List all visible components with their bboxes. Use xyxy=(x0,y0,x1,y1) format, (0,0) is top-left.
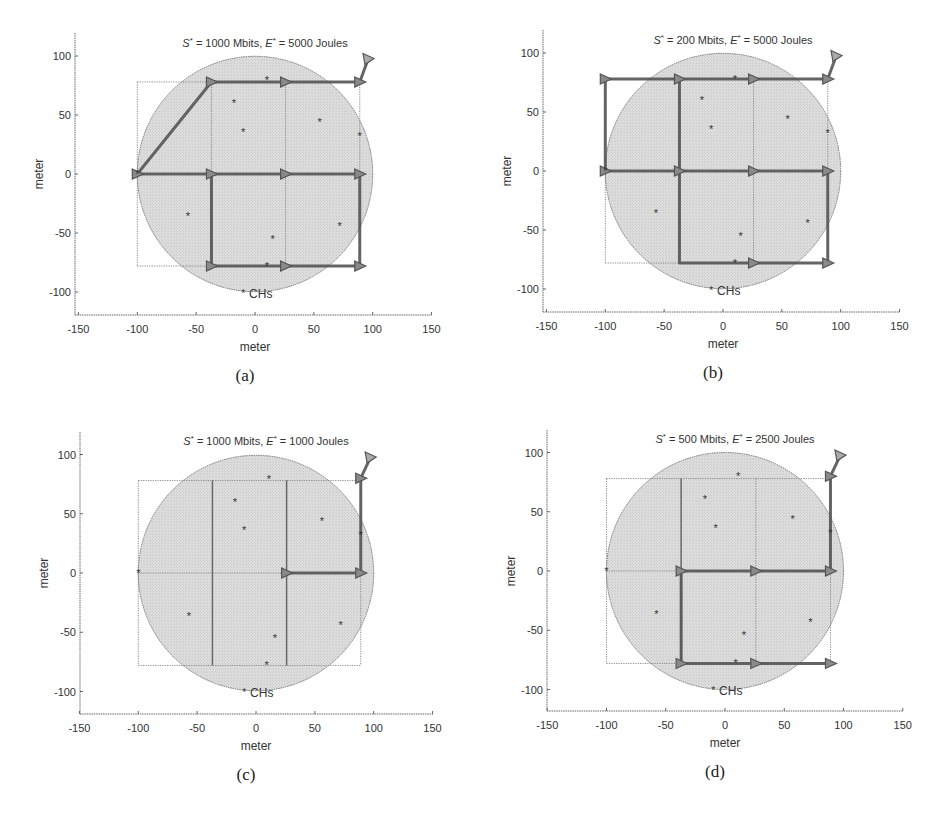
x-axis-label: meter xyxy=(240,340,271,354)
x-tick-label: 100 xyxy=(365,722,383,734)
ch-marker: * xyxy=(242,524,247,536)
y-tick-label: -50 xyxy=(527,624,543,636)
y-tick-label: -50 xyxy=(55,227,71,239)
subplot-caption: (b) xyxy=(703,363,723,382)
y-tick-label: 100 xyxy=(58,449,76,461)
x-tick-label: -150 xyxy=(67,323,89,335)
ch-marker: * xyxy=(186,210,191,222)
x-tick-label: 0 xyxy=(722,719,728,731)
ch-marker: * xyxy=(267,473,272,485)
y-tick-label: 100 xyxy=(53,50,71,62)
ch-marker: * xyxy=(338,220,343,232)
ch-marker: * xyxy=(733,73,738,85)
x-tick-label: -50 xyxy=(658,719,674,731)
sink-start-marker xyxy=(831,51,842,62)
y-tick-label: -50 xyxy=(523,224,539,236)
sink-start-marker xyxy=(835,450,846,461)
legend-marker-icon: * xyxy=(241,288,245,299)
figure-canvas: **********-150-100-50050100150-100-50050… xyxy=(0,0,939,816)
ch-marker: * xyxy=(826,127,831,139)
x-tick-label: -150 xyxy=(535,320,557,332)
ch-marker: * xyxy=(604,565,609,577)
ch-marker: * xyxy=(358,130,363,142)
subplot-title: S* = 1000 Mbits, E* = 5000 Joules xyxy=(182,36,348,49)
y-tick-label: 50 xyxy=(527,106,539,118)
x-tick-label: 150 xyxy=(890,320,908,332)
x-tick-label: -50 xyxy=(656,320,672,332)
y-tick-label: -100 xyxy=(49,286,71,298)
y-tick-label: 50 xyxy=(64,508,76,520)
ch-marker: * xyxy=(736,470,741,482)
x-axis-label: meter xyxy=(241,739,272,753)
x-tick-label: -150 xyxy=(536,719,558,731)
x-tick-label: 50 xyxy=(308,323,320,335)
x-tick-label: 0 xyxy=(720,320,726,332)
sink-start-marker xyxy=(363,54,374,65)
subplot-c: **********-150-100-50050100150-100-50050… xyxy=(37,432,442,784)
y-tick-label: 100 xyxy=(521,47,539,59)
ch-marker: * xyxy=(187,610,192,622)
y-axis-label: meter xyxy=(32,159,46,190)
legend-marker-icon: * xyxy=(711,685,715,696)
ch-marker: * xyxy=(654,207,659,219)
ch-marker: * xyxy=(713,522,718,534)
x-tick-label: 100 xyxy=(832,320,850,332)
x-tick-label: 150 xyxy=(422,323,440,335)
ch-marker: * xyxy=(828,527,833,539)
ch-marker: * xyxy=(264,659,269,671)
y-axis-label: meter xyxy=(504,556,518,587)
x-tick-label: 150 xyxy=(423,722,441,734)
ch-marker: * xyxy=(233,496,238,508)
ch-marker: * xyxy=(265,74,270,86)
ch-marker: * xyxy=(734,657,739,669)
x-tick-label: 50 xyxy=(309,722,321,734)
subplot-caption: (a) xyxy=(236,366,255,385)
y-tick-label: 0 xyxy=(537,565,543,577)
x-tick-label: 50 xyxy=(776,320,788,332)
y-axis-label: meter xyxy=(37,558,51,589)
subplot-d: **********-150-100-50050100150-100-50050… xyxy=(504,430,912,781)
ch-marker: * xyxy=(703,493,708,505)
ch-marker: * xyxy=(320,515,325,527)
x-tick-label: -50 xyxy=(188,323,204,335)
ch-marker: * xyxy=(808,616,813,628)
y-tick-label: 0 xyxy=(70,567,76,579)
x-tick-label: -100 xyxy=(126,323,148,335)
y-tick-label: 50 xyxy=(59,109,71,121)
subplot-title: S* = 1000 Mbits, E* = 1000 Joules xyxy=(183,434,349,447)
ch-marker: * xyxy=(700,94,705,106)
ch-marker: * xyxy=(232,97,237,109)
y-tick-label: 0 xyxy=(533,165,539,177)
x-tick-label: -150 xyxy=(68,722,90,734)
x-tick-label: 100 xyxy=(834,719,852,731)
x-tick-label: -100 xyxy=(127,722,149,734)
ch-marker: * xyxy=(733,257,738,269)
y-tick-label: -100 xyxy=(521,684,543,696)
x-tick-label: 50 xyxy=(778,719,790,731)
legend-label: CHs xyxy=(250,686,273,700)
x-tick-label: 0 xyxy=(252,323,258,335)
ch-marker: * xyxy=(654,608,659,620)
ch-marker: * xyxy=(806,217,811,229)
y-tick-label: 100 xyxy=(525,447,543,459)
ch-marker: * xyxy=(786,113,791,125)
subplot-b: **********-150-100-50050100150-100-50050… xyxy=(500,30,909,382)
y-tick-label: -50 xyxy=(60,626,76,638)
ch-marker: * xyxy=(271,233,276,245)
subplot-caption: (c) xyxy=(237,765,256,784)
ch-marker: * xyxy=(739,230,744,242)
x-tick-label: 150 xyxy=(894,719,912,731)
ch-marker: * xyxy=(241,126,246,138)
legend-label: CHs xyxy=(249,287,272,301)
x-axis-label: meter xyxy=(710,736,741,750)
x-axis-label: meter xyxy=(708,337,739,351)
ch-marker: * xyxy=(265,260,270,272)
x-tick-label: 0 xyxy=(253,722,259,734)
ch-marker: * xyxy=(790,513,795,525)
ch-marker: * xyxy=(339,619,344,631)
legend-marker-icon: * xyxy=(242,687,246,698)
subplot-title: S* = 200 Mbits, E* = 5000 Joules xyxy=(653,33,813,46)
legend-label: CHs xyxy=(717,284,740,298)
ch-marker: * xyxy=(273,632,278,644)
x-tick-label: -100 xyxy=(594,320,616,332)
